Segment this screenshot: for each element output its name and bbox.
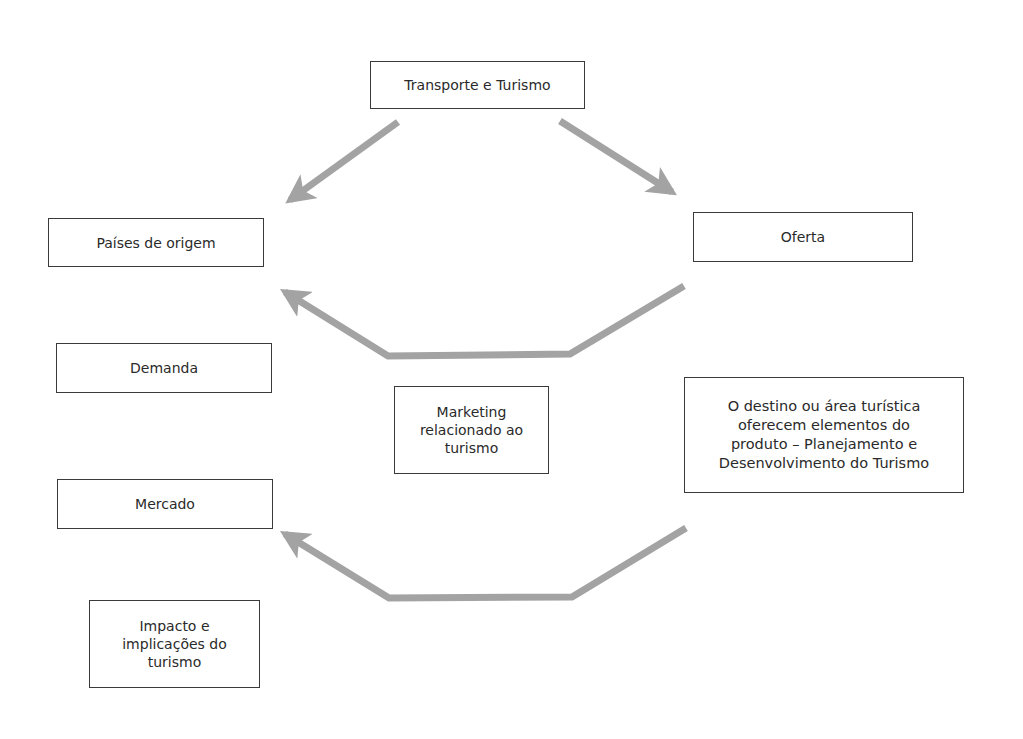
node-marketing: Marketing relacionado ao turismo	[394, 386, 549, 474]
node-label: O destino ou área turística oferecem ele…	[719, 397, 929, 473]
node-label: Demanda	[130, 359, 198, 377]
node-label: Impacto e implicações do turismo	[122, 617, 227, 671]
arrow-transporte-to-oferta	[560, 121, 672, 192]
node-paises-de-origem: Países de origem	[48, 218, 264, 267]
tourism-system-diagram: Transporte e Turismo Transporte e Turism…	[0, 0, 1023, 739]
arrow-destino-to-mercado	[285, 528, 686, 598]
node-label: Mercado	[135, 495, 195, 513]
node-mercado: Mercado	[57, 479, 273, 529]
node-oferta: Oferta	[693, 212, 913, 262]
node-destino: O destino ou área turística oferecem ele…	[684, 377, 964, 493]
node-impacto: Impacto e implicações do turismo	[89, 600, 260, 688]
arrow-oferta-to-paises	[285, 286, 684, 356]
node-label: Oferta	[781, 228, 825, 246]
node-label: Países de origem	[96, 234, 215, 252]
node-label: Marketing relacionado ao turismo	[420, 403, 523, 457]
node-demanda: Demanda	[56, 343, 272, 393]
node-label: Transporte e Turismo	[404, 76, 550, 94]
node-transporte-e-turismo-frame: Transporte e Turismo	[370, 61, 585, 109]
arrow-transporte-to-paises	[290, 122, 398, 200]
